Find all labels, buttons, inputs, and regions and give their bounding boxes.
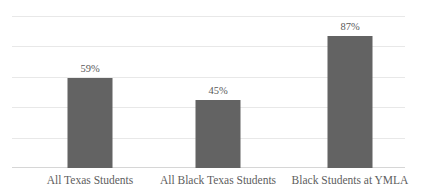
bar-group-all-texas-students: 59% — [60, 16, 120, 168]
bar-group-black-students-at-ymla: 87% — [320, 16, 380, 168]
category-label-all-texas-students: All Texas Students — [47, 172, 134, 188]
bar-value-label-black-students-at-ymla: 87% — [340, 21, 359, 33]
bar-group-all-black-texas-students: 45% — [188, 16, 248, 168]
bars-layer: 59% 45% 87% — [12, 16, 405, 168]
plot-area: 59% 45% 87% — [12, 16, 405, 168]
category-label-all-black-texas-students: All Black Texas Students — [160, 172, 276, 188]
bar-value-label-all-texas-students: 59% — [80, 63, 99, 75]
bar-black-students-at-ymla — [328, 36, 373, 168]
bar-chart: 59% 45% 87% All Texas Students All Black… — [0, 0, 422, 195]
bar-all-black-texas-students — [196, 100, 241, 168]
category-axis: All Texas Students All Black Texas Stude… — [12, 170, 405, 192]
bar-all-texas-students — [68, 78, 113, 168]
bar-value-label-all-black-texas-students: 45% — [208, 85, 227, 97]
category-label-black-students-at-ymla: Black Students at YMLA — [292, 172, 409, 188]
